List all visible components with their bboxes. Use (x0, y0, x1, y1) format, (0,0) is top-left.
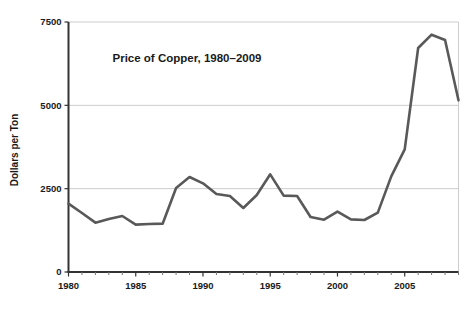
chart-figure: 0250050007500 198019851990199520002005 P… (0, 0, 476, 309)
y-tick-label-5000: 5000 (40, 100, 61, 111)
chart-canvas: 0250050007500 198019851990199520002005 P… (0, 0, 476, 309)
x-tick-label-1995: 1995 (260, 280, 282, 291)
x-tick-label-1980: 1980 (58, 280, 79, 291)
x-tick-label-2005: 2005 (394, 280, 416, 291)
chart-title: Price of Copper, 1980–2009 (113, 52, 262, 64)
x-tick-label-2000: 2000 (327, 280, 348, 291)
y-tick-label-0: 0 (56, 266, 61, 277)
chart-background (0, 0, 476, 309)
x-tick-label-1990: 1990 (192, 280, 213, 291)
x-tick-label-1985: 1985 (125, 280, 147, 291)
y-tick-label-7500: 7500 (40, 16, 61, 27)
y-tick-label-2500: 2500 (40, 183, 61, 194)
y-axis-title: Dollars per Ton (9, 114, 20, 187)
